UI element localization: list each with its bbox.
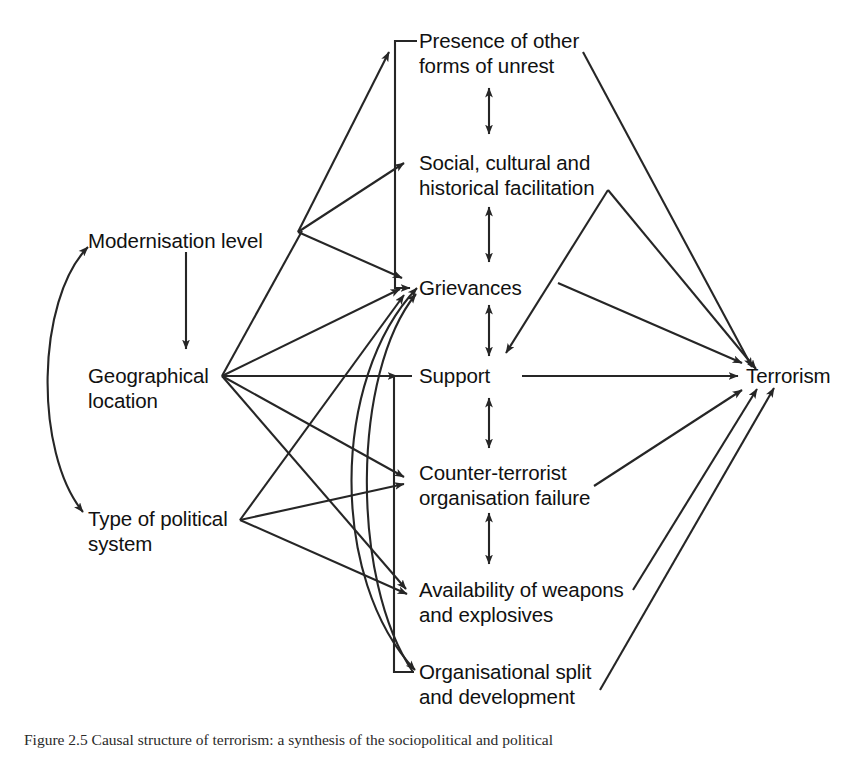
edge-geographical-weapons	[222, 376, 406, 589]
node-support: Support	[419, 363, 490, 388]
node-presence-of-other-forms-of-unrest: Presence of other forms of unrest	[419, 28, 579, 78]
edge-grievances-terrorism	[558, 283, 742, 363]
node-modernisation-level: Modernisation level	[88, 228, 263, 253]
edge-politicalsystem-weapons	[240, 520, 407, 594]
edge-weapons-terrorism	[633, 389, 757, 590]
edge-geographical-counterterrorist	[222, 376, 404, 477]
node-social-cultural-historical-facilitation: Social, cultural and historical facilita…	[419, 150, 594, 200]
edge-modernisation-social-cultural	[298, 163, 404, 232]
edge-politicalsystem-grievances	[240, 295, 404, 520]
edge-unrest-terrorism	[583, 52, 752, 367]
edge-social-cultural-terrorism	[608, 190, 756, 369]
node-geographical-location: Geographical location	[88, 363, 209, 413]
node-organisational-split-and-development: Organisational split and development	[419, 659, 591, 709]
node-terrorism: Terrorism	[746, 363, 831, 388]
node-availability-of-weapons-and-explosives: Availability of weapons and explosives	[419, 577, 624, 627]
edge-counterterrorist-terrorism	[594, 390, 742, 486]
edge-modernisation-presence-unrest	[298, 52, 389, 232]
edge-modernisation-grievances	[298, 232, 402, 278]
edge-modernisation-politicalsystem	[48, 247, 88, 512]
edge-social-cultural-support	[506, 190, 608, 353]
figure-caption: Figure 2.5 Causal structure of terrorism…	[24, 730, 852, 756]
edge-bracket-unrest-grievances	[395, 41, 417, 288]
edge-geographical-grievances	[222, 289, 400, 376]
edge-bracket-support-organisational	[394, 376, 414, 672]
edge-organisational-grievances-return	[367, 294, 416, 672]
edge-politicalsystem-counterterrorist	[240, 484, 404, 520]
edge-organisational-terrorism	[600, 388, 774, 690]
node-counter-terrorist-organisation-failure: Counter-terrorist organisation failure	[419, 460, 590, 510]
node-grievances: Grievances	[419, 275, 522, 300]
figure-canvas: Modernisation level Geographical locatio…	[0, 0, 867, 758]
node-type-of-political-system: Type of political system	[88, 506, 228, 556]
edge-grievances-organisational	[351, 288, 417, 670]
